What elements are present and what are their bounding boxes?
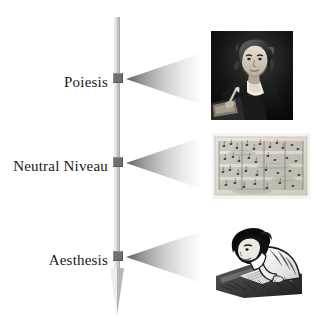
composer-portrait-image	[211, 31, 293, 120]
tripartition-diagram: Poiesis	[0, 0, 325, 318]
process-axis-arrowhead-icon	[110, 268, 124, 316]
manuscript-score-image	[212, 133, 310, 199]
stage-label-poiesis: Poiesis	[64, 74, 108, 90]
stage-label-neutral-niveau: Neutral Niveau	[13, 158, 108, 174]
poiesis-cone	[126, 53, 202, 105]
listener-reader-image	[214, 220, 302, 298]
neutral-niveau-node[interactable]	[113, 157, 123, 167]
aesthesis-cone	[126, 231, 202, 283]
neutral-niveau-label-wrap: Neutral Niveau	[0, 157, 108, 175]
poiesis-node[interactable]	[113, 73, 123, 83]
aesthesis-label-wrap: Aesthesis	[0, 251, 108, 269]
stage-label-aesthesis: Aesthesis	[49, 252, 108, 268]
process-axis-shaft	[114, 17, 120, 282]
aesthesis-node[interactable]	[113, 251, 123, 261]
poiesis-label-wrap: Poiesis	[0, 73, 108, 91]
neutral-niveau-cone	[126, 137, 202, 189]
